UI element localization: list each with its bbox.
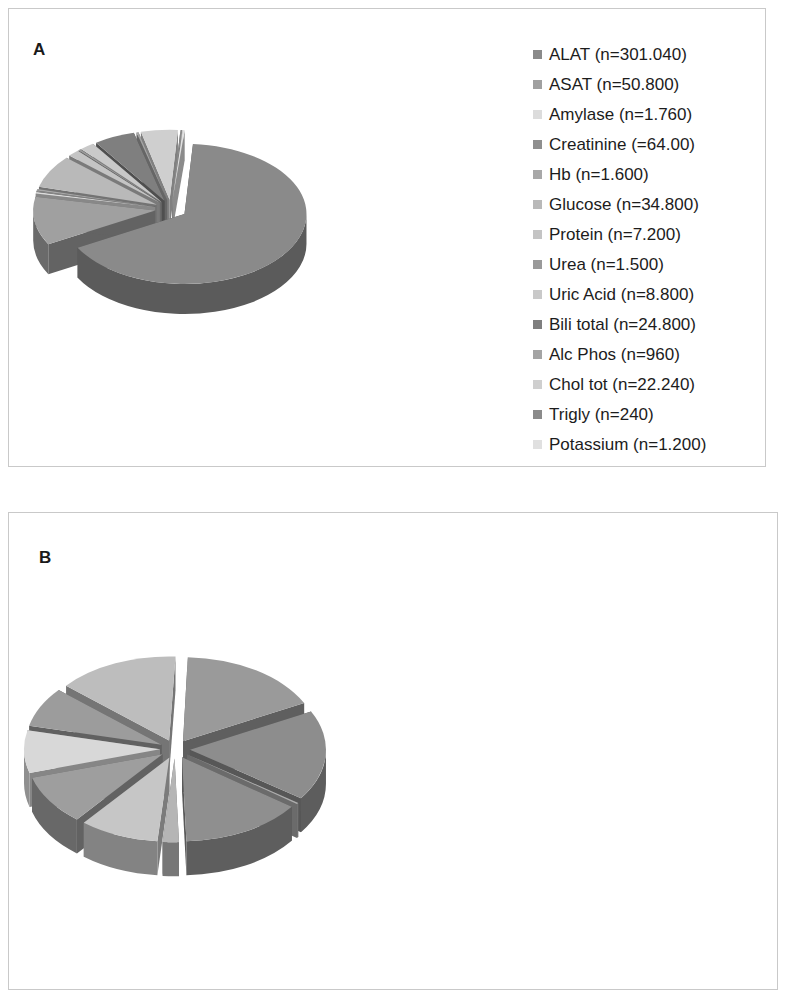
legend-label: ASAT (n=50.800)	[549, 76, 679, 93]
legend-swatch-icon	[533, 320, 542, 329]
legend-label: Hb (n=1.600)	[549, 166, 649, 183]
legend-item: Chol tot (n=22.240)	[533, 369, 706, 399]
pie-svg	[17, 591, 337, 931]
legend-swatch-icon	[533, 260, 542, 269]
legend-swatch-icon	[533, 350, 542, 359]
pie-svg	[23, 71, 323, 371]
panel-a-letter: A	[33, 40, 45, 60]
figure-sheet: A ALAT (n=301.040)ASAT (n=50.800)Amylase…	[0, 0, 790, 998]
legend-item: Creatinine (=64.00)	[533, 129, 706, 159]
legend-swatch-icon	[533, 140, 542, 149]
legend-label: Potassium (n=1.200)	[549, 436, 706, 453]
legend-item: ASAT (n=50.800)	[533, 69, 706, 99]
legend-label: Protein (n=7.200)	[549, 226, 681, 243]
legend-item: ALAT (n=301.040)	[533, 39, 706, 69]
legend-swatch-icon	[533, 50, 542, 59]
legend-item: Protein (n=7.200)	[533, 219, 706, 249]
legend-label: Chol tot (n=22.240)	[549, 376, 695, 393]
legend-swatch-icon	[533, 110, 542, 119]
legend-swatch-icon	[533, 440, 542, 449]
legend-label: Urea (n=1.500)	[549, 256, 664, 273]
legend-item: Urea (n=1.500)	[533, 249, 706, 279]
legend-item: Amylase (n=1.760)	[533, 99, 706, 129]
legend-label: Amylase (n=1.760)	[549, 106, 692, 123]
pie-chart-b	[17, 591, 337, 931]
legend-label: Bili total (n=24.800)	[549, 316, 696, 333]
legend-item: Potassium (n=1.200)	[533, 429, 706, 459]
legend-swatch-icon	[533, 170, 542, 179]
legend-label: Glucose (n=34.800)	[549, 196, 699, 213]
legend-label: Trigly (n=240)	[549, 406, 654, 423]
panel-b: B ALAT (n=2.640)ASAT (n=2.700)Amylase (n…	[8, 512, 778, 990]
pie-slice	[297, 803, 298, 838]
pie-slice	[163, 842, 179, 876]
pie-chart-a	[23, 71, 323, 371]
legend-item: Uric Acid (n=8.800)	[533, 279, 706, 309]
legend-item: Trigly (n=240)	[533, 399, 706, 429]
legend-swatch-icon	[533, 380, 542, 389]
legend-swatch-icon	[533, 80, 542, 89]
legend-swatch-icon	[533, 290, 542, 299]
legend-item: Alc Phos (n=960)	[533, 339, 706, 369]
legend-label: Alc Phos (n=960)	[549, 346, 680, 363]
legend-a: ALAT (n=301.040)ASAT (n=50.800)Amylase (…	[533, 39, 706, 459]
panel-b-letter: B	[39, 548, 51, 568]
legend-label: ALAT (n=301.040)	[549, 46, 687, 63]
panel-a: A ALAT (n=301.040)ASAT (n=50.800)Amylase…	[8, 8, 766, 467]
legend-item: Glucose (n=34.800)	[533, 189, 706, 219]
legend-swatch-icon	[533, 410, 542, 419]
legend-swatch-icon	[533, 200, 542, 209]
legend-label: Uric Acid (n=8.800)	[549, 286, 694, 303]
legend-item: Bili total (n=24.800)	[533, 309, 706, 339]
legend-label: Creatinine (=64.00)	[549, 136, 695, 153]
legend-swatch-icon	[533, 230, 542, 239]
legend-item: Hb (n=1.600)	[533, 159, 706, 189]
